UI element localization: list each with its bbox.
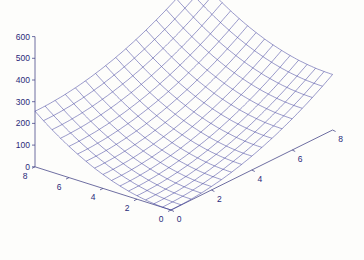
- y-tick-label: 2: [125, 203, 130, 213]
- mesh-line-x: [187, 0, 323, 86]
- surface-mesh: [35, 0, 333, 210]
- z-tick-label: 100: [16, 140, 30, 150]
- y-tick: [100, 188, 103, 190]
- mesh-line-x: [197, 0, 333, 74]
- z-tick-label: 200: [16, 118, 30, 128]
- x-tick: [171, 210, 174, 212]
- y-tick: [168, 210, 171, 212]
- z-tick-label: 600: [16, 32, 30, 42]
- x-tick-label: 2: [217, 194, 222, 204]
- mesh-line-x: [45, 106, 181, 205]
- mesh-line-x: [35, 111, 171, 210]
- mesh-line-y: [154, 68, 316, 204]
- surface-plot: 01002003004005006000246802468: [0, 0, 364, 260]
- y-tick-label: 4: [91, 192, 96, 202]
- y-tick-label: 0: [159, 214, 164, 224]
- y-tick-label: 6: [57, 182, 62, 192]
- x-tick: [252, 170, 255, 172]
- mesh-line-y: [163, 72, 325, 208]
- z-tick-label: 400: [16, 75, 30, 85]
- x-tick-label: 8: [338, 134, 343, 144]
- mesh-line-y: [78, 19, 240, 155]
- z-tick-label: 500: [16, 53, 30, 63]
- y-tick: [66, 178, 69, 180]
- mesh-line-x: [106, 66, 242, 165]
- mesh-line-y: [61, 3, 223, 139]
- x-tick-label: 6: [298, 154, 303, 164]
- x-tick-label: 4: [257, 174, 262, 184]
- y-tick: [134, 199, 137, 201]
- mesh-line-x: [75, 88, 211, 187]
- mesh-line-y: [44, 0, 206, 121]
- x-tick: [333, 130, 336, 132]
- mesh-line-y: [52, 0, 214, 130]
- z-tick-label: 300: [16, 97, 30, 107]
- x-tick: [211, 190, 214, 192]
- x-tick: [292, 150, 295, 152]
- x-tick-label: 0: [177, 214, 182, 224]
- y-tick-label: 8: [23, 171, 28, 181]
